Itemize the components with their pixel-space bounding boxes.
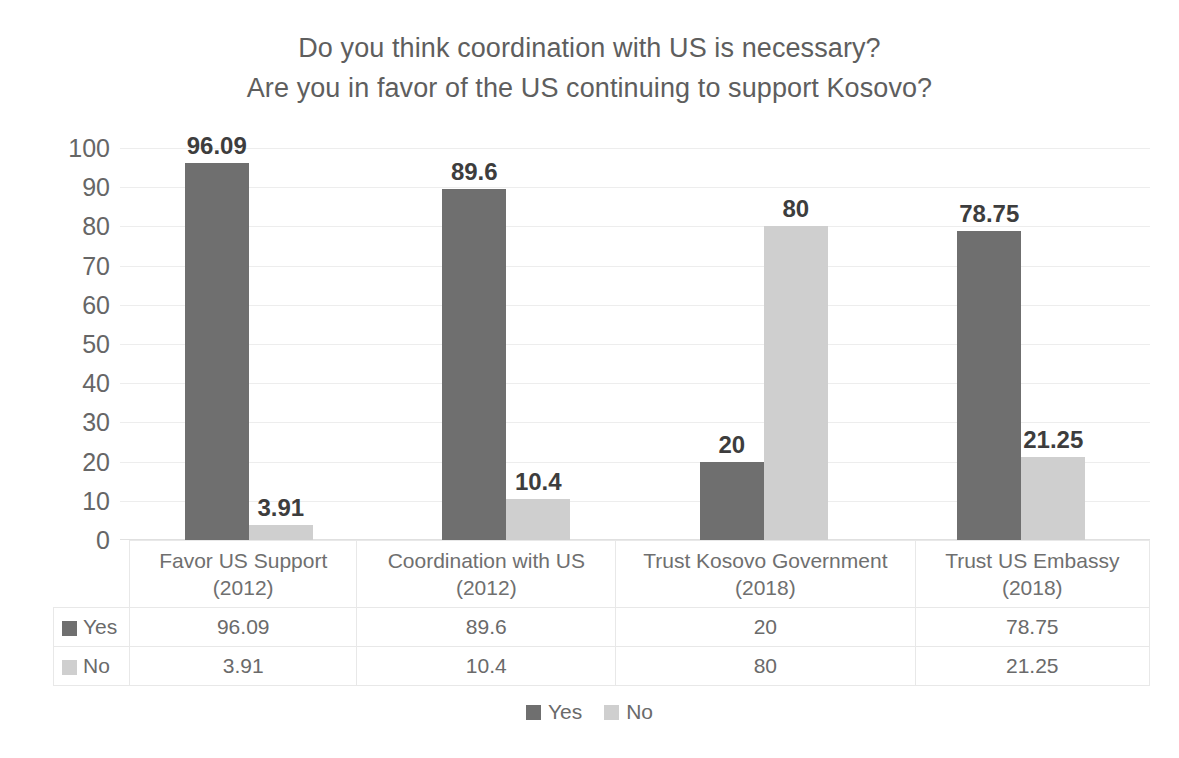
y-tick-50: 50 <box>82 332 110 357</box>
table-row-no: No 3.91 10.4 80 21.25 <box>54 647 1150 686</box>
table-series-label-no: No <box>83 654 110 677</box>
bar-label-no-1: 10.4 <box>515 470 562 494</box>
bar-no-0[interactable]: 3.91 <box>249 525 313 540</box>
y-tick-80: 80 <box>82 214 110 239</box>
table-series-label-yes: Yes <box>83 615 117 638</box>
table-corner-cell <box>54 541 130 608</box>
y-tick-90: 90 <box>82 175 110 200</box>
bar-group-coordination-with-us-2012: 89.6 10.4 <box>378 148 636 540</box>
table-category-0: Favor US Support (2012) <box>130 541 357 608</box>
bars: 89.6 10.4 <box>378 148 636 540</box>
legend-item-no[interactable]: No <box>604 700 653 724</box>
bar-label-yes-1: 89.6 <box>451 160 498 184</box>
table-cell-yes-1: 89.6 <box>357 608 616 647</box>
series-swatch-yes-icon <box>62 621 77 636</box>
bar-no-3[interactable]: 21.25 <box>1021 457 1085 540</box>
bars: 96.09 3.91 <box>120 148 378 540</box>
chart-title-line-2: Are you in favor of the US continuing to… <box>0 68 1179 108</box>
legend-swatch-no-icon <box>604 705 619 720</box>
bar-chart: Do you think coordination with US is nec… <box>0 0 1179 758</box>
bar-yes-2[interactable]: 20 <box>700 462 764 540</box>
table-row-categories: Favor US Support (2012) Coordination wit… <box>54 541 1150 608</box>
bar-label-no-2: 80 <box>782 197 809 221</box>
table-cell-no-3: 21.25 <box>915 647 1149 686</box>
table-cell-no-2: 80 <box>616 647 915 686</box>
bar-yes-1[interactable]: 89.6 <box>442 189 506 540</box>
y-tick-100: 100 <box>68 136 110 161</box>
table-cell-no-1: 10.4 <box>357 647 616 686</box>
chart-legend: Yes No <box>0 700 1179 724</box>
y-tick-70: 70 <box>82 253 110 278</box>
chart-title-line-1: Do you think coordination with US is nec… <box>0 28 1179 68</box>
y-tick-10: 10 <box>82 488 110 513</box>
table-category-2: Trust Kosovo Government (2018) <box>616 541 915 608</box>
bar-group-trust-kosovo-government-2018: 20 80 <box>635 148 893 540</box>
y-tick-60: 60 <box>82 292 110 317</box>
bar-label-yes-2: 20 <box>718 433 745 457</box>
bar-label-yes-3: 78.75 <box>959 202 1019 226</box>
y-tick-40: 40 <box>82 371 110 396</box>
bar-label-no-0: 3.91 <box>257 496 304 520</box>
series-swatch-no-icon <box>62 660 77 675</box>
legend-item-yes[interactable]: Yes <box>526 700 582 724</box>
bars: 78.75 21.25 <box>893 148 1151 540</box>
table-cell-yes-3: 78.75 <box>915 608 1149 647</box>
table-cell-yes-2: 20 <box>616 608 915 647</box>
y-tick-30: 30 <box>82 410 110 435</box>
bar-label-no-3: 21.25 <box>1023 428 1083 452</box>
bar-yes-3[interactable]: 78.75 <box>957 231 1021 540</box>
bar-no-2[interactable]: 80 <box>764 226 828 540</box>
table-row-yes: Yes 96.09 89.6 20 78.75 <box>54 608 1150 647</box>
bar-group-trust-us-embassy-2018: 78.75 21.25 <box>893 148 1151 540</box>
plot-area: 96.09 3.91 89.6 10.4 <box>120 148 1150 540</box>
legend-label-no: No <box>626 700 653 724</box>
table-category-3: Trust US Embassy (2018) <box>915 541 1149 608</box>
table-cell-no-0: 3.91 <box>130 647 357 686</box>
bar-groups: 96.09 3.91 89.6 10.4 <box>120 148 1150 540</box>
y-axis: 100 90 80 70 60 50 40 30 20 10 0 <box>48 148 110 540</box>
chart-title: Do you think coordination with US is nec… <box>0 28 1179 108</box>
table-cell-yes-0: 96.09 <box>130 608 357 647</box>
bar-group-favor-us-support-2012: 96.09 3.91 <box>120 148 378 540</box>
table-series-name-yes: Yes <box>54 608 130 647</box>
table-series-name-no: No <box>54 647 130 686</box>
bar-label-yes-0: 96.09 <box>187 134 247 158</box>
y-tick-20: 20 <box>82 449 110 474</box>
table-category-1: Coordination with US (2012) <box>357 541 616 608</box>
bar-no-1[interactable]: 10.4 <box>506 499 570 540</box>
bars: 20 80 <box>635 148 893 540</box>
legend-swatch-yes-icon <box>526 705 541 720</box>
data-table: Favor US Support (2012) Coordination wit… <box>53 540 1150 686</box>
bar-yes-0[interactable]: 96.09 <box>185 163 249 540</box>
legend-label-yes: Yes <box>548 700 582 724</box>
